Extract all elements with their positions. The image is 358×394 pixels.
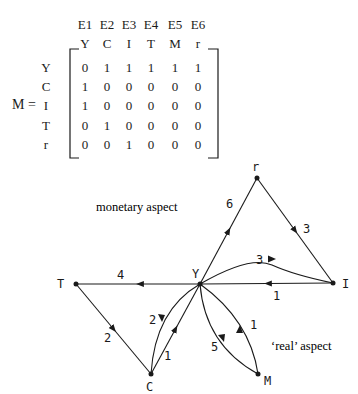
edge-i-y <box>200 283 333 284</box>
weight-y-c: 2 <box>149 313 156 327</box>
node-y <box>198 282 203 287</box>
weight-m-y: 1 <box>250 318 257 332</box>
node-label-m: M <box>264 374 271 388</box>
node-label-c: C <box>146 380 153 394</box>
weight-r-i: 3 <box>303 222 310 236</box>
node-m <box>256 372 261 377</box>
node-c <box>149 372 154 377</box>
real-aspect-label: ‘real’ aspect <box>271 339 332 353</box>
edge-y-i-curved <box>200 262 333 284</box>
edge-r-i <box>257 178 333 283</box>
edge-c-y <box>151 284 200 374</box>
node-t <box>74 282 79 287</box>
node-label-r: r <box>252 160 259 174</box>
weight-i-y: 1 <box>273 289 280 303</box>
directed-graph: Y r I T C M 6 3 3 1 4 2 2 1 5 1 monetary… <box>0 0 358 394</box>
monetary-aspect-label: monetary aspect <box>96 200 178 214</box>
weight-y-m: 5 <box>211 340 218 354</box>
edge-t-c <box>76 284 151 374</box>
node-r <box>255 176 260 181</box>
weight-t-c: 2 <box>104 331 111 345</box>
weight-c-y: 1 <box>164 349 171 363</box>
weight-y-r: 6 <box>226 197 233 211</box>
arrowhead <box>268 256 276 263</box>
edge-y-r <box>200 178 257 284</box>
node-i <box>331 281 336 286</box>
node-label-y: Y <box>192 267 200 281</box>
weight-y-i: 3 <box>256 253 263 267</box>
node-label-t: T <box>57 277 64 291</box>
weight-y-t: 4 <box>117 268 124 282</box>
node-label-i: I <box>342 277 349 291</box>
